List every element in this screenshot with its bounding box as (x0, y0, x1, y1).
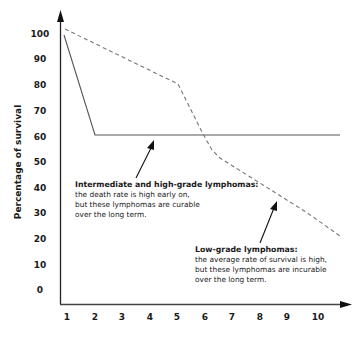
x-tick-label: 10 (312, 312, 325, 322)
y-tick-label: 10 (34, 260, 47, 270)
annotation-line: the average rate of survival is high, (195, 255, 327, 265)
annotation-line: over the long term. (195, 275, 327, 285)
x-tick-label: 2 (92, 312, 98, 322)
annotation-line: but these lymphomas are incurable (195, 265, 327, 275)
y-tick-label: 90 (34, 54, 47, 64)
arrowhead-icon (147, 140, 154, 150)
x-tick-label: 9 (284, 312, 290, 322)
annotation-intermediate-high-grade: Intermediate and high-grade lymphomas: t… (75, 180, 258, 220)
x-tick-label: 4 (147, 312, 153, 322)
arrowhead-icon (270, 201, 277, 211)
x-tick-label: 6 (202, 312, 208, 322)
y-tick-label: 100 (31, 29, 50, 39)
annotation-line: the death rate is high early on, (75, 190, 258, 200)
y-tick-label: 40 (34, 183, 47, 193)
x-tick-label: 7 (229, 312, 235, 322)
x-axis-arrow-icon (340, 301, 352, 308)
x-tick-label: 5 (174, 312, 180, 322)
x-tick-labels: 1 2 3 4 5 6 7 8 9 10 (64, 312, 324, 322)
y-tick-label: 20 (34, 234, 47, 244)
annotation-arrow-intermediate (136, 146, 152, 178)
y-axis-title: Percentage of survival (13, 105, 23, 219)
y-tick-label: 30 (34, 208, 47, 218)
y-tick-label: 60 (34, 132, 47, 142)
y-tick-label: 80 (34, 80, 47, 90)
y-tick-label: 0 (37, 285, 43, 295)
x-tick-label: 3 (119, 312, 125, 322)
series-intermediate-high-grade-line (64, 35, 340, 135)
y-tick-label: 70 (34, 106, 47, 116)
survival-chart: Percentage of survival 100 90 80 70 60 5… (0, 0, 354, 338)
y-tick-label: 50 (34, 157, 47, 167)
annotation-heading: Low-grade lymphomas: (195, 245, 327, 255)
x-tick-label: 1 (64, 312, 70, 322)
annotation-low-grade: Low-grade lymphomas: the average rate of… (195, 245, 327, 285)
annotation-arrow-low-grade (260, 208, 274, 243)
y-tick-labels: 100 90 80 70 60 50 40 30 20 10 0 (31, 29, 50, 295)
y-axis-arrow-icon (57, 10, 64, 22)
annotation-heading: Intermediate and high-grade lymphomas: (75, 180, 258, 190)
x-tick-label: 8 (257, 312, 263, 322)
annotation-line: over the long term. (75, 210, 258, 220)
annotation-line: but these lymphomas are curable (75, 200, 258, 210)
